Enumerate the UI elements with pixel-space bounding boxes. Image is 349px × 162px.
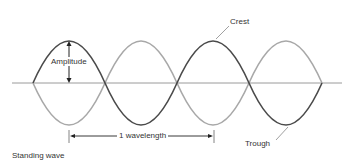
amplitude-label: Amplitude	[51, 57, 87, 66]
wavelength-arrowhead-left	[70, 134, 75, 138]
trough-label: Trough	[245, 139, 270, 148]
trough-leader-line	[276, 127, 288, 140]
diagram-title: Standing wave	[12, 151, 64, 160]
wavelength-label: 1 wavelength	[117, 131, 168, 140]
wave-graphic	[0, 0, 349, 162]
amplitude-arrowhead-down	[67, 78, 72, 83]
crest-label: Crest	[230, 17, 249, 26]
wavelength-arrowhead-right	[208, 134, 213, 138]
crest-leader-line	[216, 26, 229, 39]
standing-wave-diagram: Amplitude Crest Trough 1 wavelength Stan…	[0, 0, 349, 162]
